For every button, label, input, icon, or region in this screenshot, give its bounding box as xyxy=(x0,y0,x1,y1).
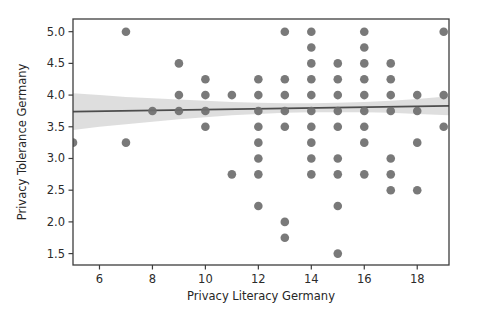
data-point xyxy=(307,122,316,131)
data-point xyxy=(307,154,316,163)
data-point xyxy=(307,91,316,100)
data-point xyxy=(228,91,237,100)
scatter-plot: 681012141618 1.52.02.53.03.54.04.55.0 Pr… xyxy=(0,0,477,328)
y-tick-label: 5.0 xyxy=(47,25,65,39)
data-point xyxy=(281,107,290,116)
data-point xyxy=(201,75,210,84)
y-tick-label: 4.0 xyxy=(47,88,65,102)
data-point xyxy=(281,122,290,131)
data-point xyxy=(360,107,369,116)
data-point xyxy=(333,107,342,116)
data-point xyxy=(360,91,369,100)
data-point xyxy=(175,59,184,68)
data-point xyxy=(307,75,316,84)
y-tick-label: 1.5 xyxy=(47,247,65,261)
data-point xyxy=(360,27,369,36)
data-point xyxy=(228,170,237,179)
data-point xyxy=(201,122,210,131)
data-point xyxy=(413,186,422,195)
data-point xyxy=(281,27,290,36)
data-point xyxy=(386,154,395,163)
data-point xyxy=(333,122,342,131)
y-tick-label: 3.0 xyxy=(47,151,65,165)
x-tick-label: 8 xyxy=(149,272,156,286)
data-point xyxy=(439,122,448,131)
data-point xyxy=(386,59,395,68)
data-point xyxy=(307,107,316,116)
x-tick-label: 6 xyxy=(96,272,103,286)
data-point xyxy=(307,43,316,52)
data-point xyxy=(413,107,422,116)
data-point xyxy=(360,59,369,68)
data-point xyxy=(281,233,290,242)
data-point xyxy=(360,170,369,179)
data-point xyxy=(386,107,395,116)
data-point xyxy=(386,186,395,195)
data-point xyxy=(281,75,290,84)
data-point xyxy=(386,75,395,84)
y-tick-label: 3.5 xyxy=(47,120,65,134)
y-axis-title: Privacy Tolerance Germany xyxy=(15,63,29,220)
figure-canvas: 681012141618 1.52.02.53.03.54.04.55.0 Pr… xyxy=(0,0,477,328)
data-point xyxy=(175,107,184,116)
data-point xyxy=(281,91,290,100)
y-tick-label: 4.5 xyxy=(47,56,65,70)
data-point xyxy=(360,138,369,147)
data-point xyxy=(175,91,184,100)
data-point xyxy=(386,170,395,179)
x-axis-title: Privacy Literacy Germany xyxy=(187,289,335,303)
data-point xyxy=(360,43,369,52)
data-point xyxy=(254,122,263,131)
x-tick-label: 12 xyxy=(251,272,266,286)
data-point xyxy=(333,154,342,163)
y-tick-label: 2.0 xyxy=(47,215,65,229)
data-point xyxy=(148,107,157,116)
data-point xyxy=(333,170,342,179)
data-point xyxy=(439,27,448,36)
data-point xyxy=(254,91,263,100)
x-tick-label: 10 xyxy=(198,272,213,286)
data-point xyxy=(281,218,290,227)
data-point xyxy=(201,91,210,100)
data-point xyxy=(333,75,342,84)
data-point xyxy=(254,138,263,147)
data-point xyxy=(413,138,422,147)
data-point xyxy=(254,202,263,211)
data-point xyxy=(254,154,263,163)
data-point xyxy=(122,138,131,147)
x-tick-label: 18 xyxy=(410,272,425,286)
data-point xyxy=(122,27,131,36)
data-point xyxy=(333,59,342,68)
data-point xyxy=(254,75,263,84)
data-point xyxy=(307,170,316,179)
data-point xyxy=(386,91,395,100)
data-point xyxy=(439,91,448,100)
data-point xyxy=(254,107,263,116)
x-tick-label: 14 xyxy=(304,272,319,286)
data-point xyxy=(201,107,210,116)
data-point xyxy=(413,91,422,100)
data-point xyxy=(360,75,369,84)
y-tick-label: 2.5 xyxy=(47,183,65,197)
data-point xyxy=(307,27,316,36)
data-point xyxy=(254,170,263,179)
data-point xyxy=(360,122,369,131)
data-point xyxy=(307,59,316,68)
data-point xyxy=(333,249,342,258)
x-tick-label: 16 xyxy=(357,272,372,286)
data-point xyxy=(333,202,342,211)
data-point xyxy=(307,138,316,147)
data-point xyxy=(333,91,342,100)
